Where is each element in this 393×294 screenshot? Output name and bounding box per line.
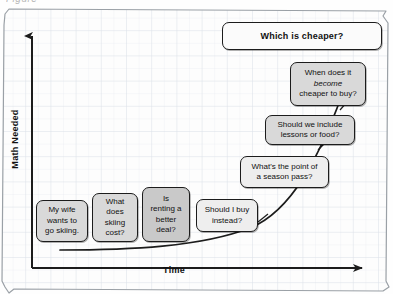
question-box-renting[interactable]: Is renting a better deal? (142, 187, 190, 242)
cheaper-line-1: Which is cheaper? (226, 31, 378, 42)
wife-line-1: My wife (48, 205, 75, 214)
x-axis-label: Time (163, 265, 185, 275)
cost-line-3: skiing (105, 218, 125, 227)
question-box-which-is-cheaper[interactable]: Which is cheaper? (222, 22, 382, 50)
pass-line-1: What's the point of (251, 162, 317, 171)
rent-line-4: deal? (156, 225, 176, 234)
rent-line-1: Is (163, 194, 169, 203)
buy-line-2: instead? (212, 216, 242, 225)
question-box-become-cheaper[interactable]: When does it become cheaper to buy? (290, 62, 366, 106)
buy-line-1: Should I buy (205, 205, 249, 214)
cost-line-1: What (106, 197, 125, 206)
pass-line-2: a season pass? (256, 172, 312, 181)
question-box-cost[interactable]: What does skiing cost? (92, 193, 138, 242)
cost-line-4: cost? (105, 228, 124, 237)
question-box-buy-instead[interactable]: Should I buy instead? (196, 199, 258, 232)
become-line-2-italic: become (314, 79, 342, 88)
lessons-line-1: Should we include (278, 120, 343, 129)
rent-line-2: renting a (150, 204, 181, 213)
become-line-3: cheaper to buy? (299, 89, 356, 98)
lessons-line-2: lessons or food? (281, 130, 340, 139)
question-box-wife[interactable]: My wife wants to go skiing. (36, 200, 88, 242)
become-line-1: When does it (305, 68, 352, 77)
figure-stage: Figure (0, 0, 393, 294)
question-box-season-pass[interactable]: What's the point of a season pass? (240, 156, 329, 188)
y-axis-label: Math Needed (10, 104, 20, 174)
wife-line-2: wants to (47, 216, 77, 225)
cost-line-2: does (106, 207, 123, 216)
wife-line-3: go skiing. (45, 226, 79, 235)
question-box-lessons-food[interactable]: Should we include lessons or food? (265, 115, 355, 145)
rent-line-3: better (156, 215, 176, 224)
